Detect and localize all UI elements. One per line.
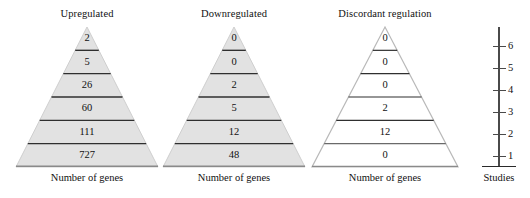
pyramid-row-value: 26 <box>16 74 158 97</box>
pyramid-caption: Number of genes <box>163 172 305 183</box>
pyramid-row-value: 5 <box>16 50 158 73</box>
pyramid-row-value: 0 <box>312 144 458 167</box>
axis-tick-mark <box>493 90 506 91</box>
pyramid-row-value: 2 <box>16 27 158 50</box>
axis-tick: 3 <box>479 107 519 119</box>
axis-caption: Studies <box>470 172 528 183</box>
pyramid-row-value: 48 <box>163 144 305 167</box>
pyramid-row-value: 60 <box>16 97 158 120</box>
axis-tick-label: 1 <box>508 151 513 162</box>
axis-tick-mark <box>493 112 506 113</box>
pyramid-discordant-regulation: Discordant regulation 0 0 0 2 12 0 Numbe… <box>312 0 458 198</box>
pyramid-row-value: 0 <box>312 27 458 50</box>
pyramid-figure: Upregulated 2 5 26 60 111 727 Number of … <box>0 0 530 198</box>
pyramid-shape: 0 0 2 5 12 48 <box>163 27 305 167</box>
axis-tick: 4 <box>479 85 519 97</box>
pyramid-row-value: 0 <box>163 50 305 73</box>
pyramid-shape: 0 0 0 2 12 0 <box>312 27 458 167</box>
pyramid-row-value: 12 <box>163 120 305 143</box>
axis-tick-label: 6 <box>508 41 513 52</box>
axis-tick-label: 4 <box>508 85 513 96</box>
pyramid-caption: Number of genes <box>16 172 158 183</box>
axis-tick-mark <box>493 68 506 69</box>
pyramid-shape: 2 5 26 60 111 727 <box>16 27 158 167</box>
pyramid-value-rows: 0 0 0 2 12 0 <box>312 27 458 167</box>
axis-tick-mark <box>493 46 506 47</box>
pyramid-title: Upregulated <box>16 8 158 19</box>
axis-baseline <box>482 166 516 167</box>
pyramid-title: Downregulated <box>163 8 305 19</box>
pyramid-caption: Number of genes <box>312 172 458 183</box>
axis-tick: 2 <box>479 129 519 141</box>
pyramid-row-value: 12 <box>312 120 458 143</box>
pyramid-value-rows: 2 5 26 60 111 727 <box>16 27 158 167</box>
pyramid-downregulated: Downregulated 0 0 2 5 12 48 Number of ge… <box>163 0 305 198</box>
pyramid-row-value: 0 <box>163 27 305 50</box>
pyramid-value-rows: 0 0 2 5 12 48 <box>163 27 305 167</box>
pyramid-row-value: 2 <box>312 97 458 120</box>
pyramid-row-value: 727 <box>16 144 158 167</box>
pyramid-row-value: 5 <box>163 97 305 120</box>
axis-tick-label: 5 <box>508 63 513 74</box>
pyramid-row-value: 0 <box>312 74 458 97</box>
pyramid-title: Discordant regulation <box>312 8 458 19</box>
studies-axis: 6 5 4 3 2 1 Studies <box>470 0 528 198</box>
pyramid-row-value: 0 <box>312 50 458 73</box>
axis-tick-mark <box>493 134 506 135</box>
pyramid-upregulated: Upregulated 2 5 26 60 111 727 Number of … <box>16 0 158 198</box>
axis-tick-label: 2 <box>508 129 513 140</box>
pyramid-row-value: 111 <box>16 120 158 143</box>
axis-tick: 6 <box>479 41 519 53</box>
axis-tick-mark <box>493 156 506 157</box>
axis-tick: 1 <box>479 151 519 163</box>
axis-tick: 5 <box>479 63 519 75</box>
axis-tick-label: 3 <box>508 107 513 118</box>
pyramid-row-value: 2 <box>163 74 305 97</box>
